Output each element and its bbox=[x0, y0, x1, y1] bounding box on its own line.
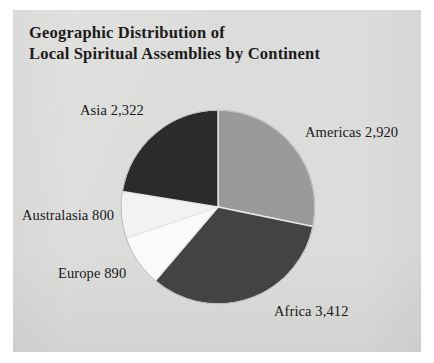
pie-chart: Americas 2,920 Africa 3,412 Europe 890 A… bbox=[0, 0, 434, 363]
figure-container: Geographic Distribution of Local Spiritu… bbox=[0, 0, 434, 363]
pie-chart-svg bbox=[0, 0, 434, 363]
pie-label-africa: Africa 3,412 bbox=[274, 303, 348, 320]
pie-slice-americas bbox=[218, 110, 315, 227]
pie-label-europe: Europe 890 bbox=[58, 265, 126, 282]
pie-slice-asia bbox=[122, 110, 218, 207]
pie-label-asia: Asia 2,322 bbox=[80, 102, 144, 119]
pie-slice-group bbox=[121, 110, 315, 304]
pie-label-australasia: Australasia 800 bbox=[22, 207, 114, 224]
pie-label-americas: Americas 2,920 bbox=[305, 124, 398, 141]
